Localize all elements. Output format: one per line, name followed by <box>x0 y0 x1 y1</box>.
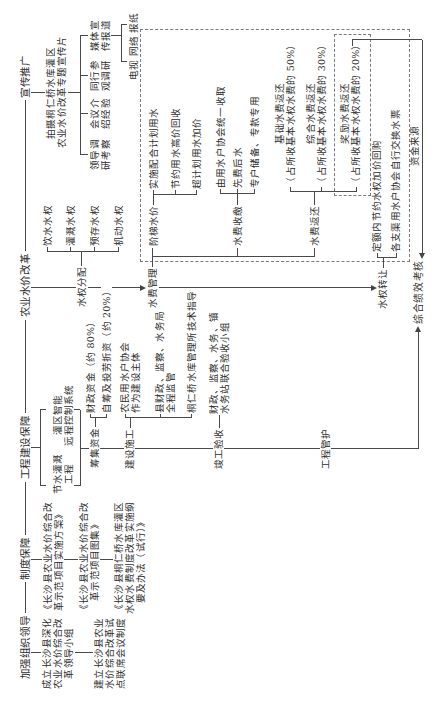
connector-line <box>95 418 96 427</box>
publicity-activity: 同行参 观调研 <box>89 58 111 93</box>
arrow-right-icon <box>415 326 421 332</box>
bracket-line <box>90 414 91 418</box>
transfer-item: 各支渠用水户协会自行交换水票 <box>390 109 401 252</box>
leadership-item: 建立长沙县农业 水价综合改革试 点联席会议制度 <box>93 616 126 690</box>
text-line: 会议介 <box>89 96 100 131</box>
arrow-down-icon <box>371 285 377 291</box>
refund-title: 综合水费返还 <box>305 39 316 187</box>
construction-item: 县财政、监察、水务局 全程监管 <box>154 311 176 413</box>
refund-note: （占所收基本水权水费的 20%） <box>350 39 361 187</box>
text-line: 拍摄桐仁桥水库灌区 <box>45 38 56 148</box>
text-line: 革领导小组 <box>63 616 74 690</box>
bracket-line <box>220 189 221 194</box>
publicity-activity: 领导调 研考察 <box>89 137 111 172</box>
bracket-line <box>70 247 71 252</box>
bracket-line <box>80 35 88 36</box>
bracket-line <box>47 251 118 252</box>
text-line: 桐仁桥水库管理所技术指导 <box>186 291 197 413</box>
text-line: 远程控制系统 <box>63 384 74 446</box>
bracket-line <box>80 36 81 155</box>
fund-source-label: 资金来源 <box>409 125 420 167</box>
connector-line <box>31 287 76 288</box>
node-water-rights-transfer: 水权转让 <box>377 268 388 310</box>
bracket-line <box>196 190 197 195</box>
node-acceptance: 竣工验收 <box>213 428 224 470</box>
fund-source-line <box>352 39 422 40</box>
text-line: 灌区智能 <box>52 384 63 446</box>
bracket-line <box>125 414 126 418</box>
node-funding: 筹集资金 <box>89 427 100 469</box>
bracket-line <box>47 247 48 252</box>
bracket-line <box>175 190 176 195</box>
refund-note: （占所收基本水权水费的 50%） <box>285 39 296 187</box>
promo-film: 拍摄桐仁桥水库灌区 农业水价改革专题宣传片 <box>45 38 67 148</box>
fee-to-transfer-line <box>159 287 371 288</box>
node-fee-collection: 水费收缴 <box>232 205 243 247</box>
text-line: 县财政、监察、水务局 <box>154 311 165 413</box>
refund-title: 奖励水费返还 <box>339 39 350 187</box>
bracket-line <box>121 25 122 62</box>
bracket-line <box>40 410 41 486</box>
bracket-line <box>74 485 80 486</box>
node-institution: 制度保障 <box>19 535 31 582</box>
text-line: 农民用水户协会 <box>119 342 130 413</box>
text-line: 成立长沙县深化 <box>41 616 52 690</box>
fee-branch-line <box>152 256 314 257</box>
node-engineering: 工程建设保障 <box>19 413 31 482</box>
text-line: 农业水价改革专题宣传片 <box>56 38 67 148</box>
tiered-pricing-item: 超计划用水加价 <box>191 118 202 189</box>
bracket-line <box>396 253 397 258</box>
node-publicity: 宣传推广 <box>19 53 31 100</box>
bracket-line <box>40 409 46 410</box>
text-line: 绍经验 <box>100 96 111 131</box>
bracket-line <box>125 417 191 418</box>
connector-line <box>64 559 78 560</box>
policy-document: 《长沙县农业水价综合改 革示范项目图集》 <box>78 506 100 614</box>
text-line: 水务站联合验收小组 <box>219 312 230 414</box>
policy-document: 《长沙县农业水价综合改 革示范项目实施方案》 <box>42 506 64 614</box>
bracket-line <box>321 187 322 192</box>
connector-line <box>75 652 93 653</box>
bracket-line <box>191 414 192 418</box>
text-line: 作为建设主体 <box>130 342 141 413</box>
connector-line <box>81 252 82 266</box>
text-line: 点联席会议制度 <box>115 616 126 690</box>
water-right-item: 预存水权 <box>89 205 100 246</box>
project-remote-control: 灌区智能 远程控制系统 <box>52 384 74 446</box>
bracket-line <box>118 247 119 252</box>
connector-line <box>111 35 121 36</box>
water-right-item: 灌溉水权 <box>65 205 76 246</box>
construction-item: 桐仁桥水库管理所技术指导 <box>186 291 197 413</box>
text-line: 革示范项目图集》 <box>89 506 100 614</box>
project-water-saving: 节水灌溉 工程 <box>52 452 74 496</box>
node-leadership: 加强组织领导 <box>19 613 31 682</box>
funding-item: 自筹及投劳折资（约 20%） <box>101 286 112 413</box>
node-performance-assessment: 综合绩效考核 <box>413 258 425 326</box>
bracket-line <box>377 253 378 258</box>
bracket-line <box>40 485 46 486</box>
acceptance-team: 财政、监察、水务、镇 水务站联合验收小组 <box>208 312 230 414</box>
node-fee-refund: 水费返还 <box>309 205 320 247</box>
bracket-line <box>106 414 107 418</box>
publicity-activity: 媒体宣 传报道 <box>89 18 111 53</box>
connector-line <box>153 190 154 205</box>
bracket-line <box>160 414 161 418</box>
media-channels: 电视 网络 报纸 <box>128 12 139 80</box>
fund-source-line <box>422 40 423 253</box>
arrow-left-icon <box>419 253 425 259</box>
text-line: 研考察 <box>100 137 111 172</box>
text-line: 水价综合改革试 <box>104 616 115 690</box>
bracket-line <box>237 189 238 194</box>
node-fee-management: 水费管理 <box>147 267 158 309</box>
text-line: 财政、监察、水务、镇 <box>208 312 219 414</box>
connector-line <box>31 559 42 560</box>
text-line: 《长沙县农业水价综合改 <box>42 506 53 614</box>
bracket-line <box>290 187 291 192</box>
text-line: 建立长沙县农业 <box>93 616 104 690</box>
funding-item: 财政资金（约 80%） <box>85 317 96 413</box>
bracket-line <box>74 409 80 410</box>
text-line: 水权水费制度改革实施纲 <box>124 506 135 614</box>
water-right-item: 机动水权 <box>113 205 124 246</box>
bracket-line <box>94 247 95 252</box>
text-line: 传报道 <box>100 18 111 53</box>
